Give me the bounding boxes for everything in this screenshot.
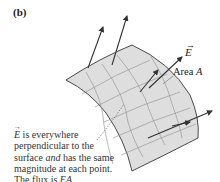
caption-line-1: E is everywhere [14, 129, 134, 140]
caption-line-4: magnitude at each point. [14, 163, 134, 174]
vector-arrow-icon: → [186, 40, 195, 50]
area-label: Area A [173, 66, 202, 77]
figure-caption: E is everywhere perpendicular to the sur… [14, 129, 134, 182]
panel-label: (b) [13, 6, 26, 18]
caption-line-2: perpendicular to the [14, 140, 134, 151]
caption-line-5: The flux is EA. [14, 174, 134, 182]
caption-line-3: surface and has the same [14, 152, 134, 163]
flux-figure: (b) → E Area A E is everywhere perpendic… [0, 0, 220, 182]
field-vector-label: → E [185, 46, 192, 58]
